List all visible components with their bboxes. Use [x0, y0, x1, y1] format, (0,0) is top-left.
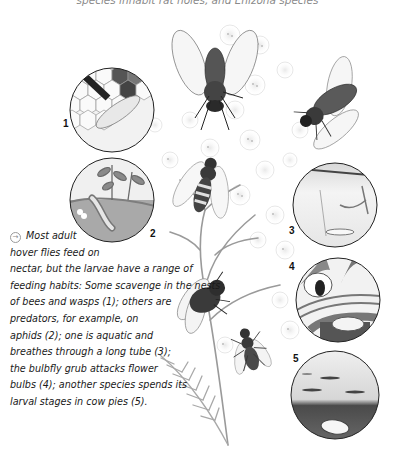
caption-line-11: larval stages in cow pies (5). [10, 394, 200, 411]
inset-4-bulbfly-grub [296, 248, 380, 347]
inset-number-5: 5 [293, 353, 299, 364]
inset-number-1: 1 [63, 118, 69, 129]
inset-5-cow-pie-larva [291, 351, 379, 439]
inset-number-3: 3 [289, 225, 295, 236]
caption-line-9: the bulbfly grub attacks flower [10, 361, 200, 378]
caption-line-4: feeding habits: Some scavenge in the nes… [10, 278, 200, 295]
hover-fly-right [277, 45, 389, 157]
inset-1-bee-nest [64, 65, 154, 152]
caption-line-7: aphids (2); one is aquatic and [10, 328, 200, 345]
caption-line-5: of bees and wasps (1); others are [10, 294, 200, 311]
figure-caption: →Most adult hover flies feed on nectar, … [10, 228, 200, 411]
caption-line-2: hover flies feed on [10, 245, 200, 262]
caption-line-1: →Most adult [10, 228, 200, 245]
caption-line-8: breathes through a long tube (3); [10, 344, 200, 361]
caption-line-10: bulbs (4); another species spends its [10, 377, 200, 394]
inset-3-aquatic-larva [290, 163, 380, 247]
arrow-circle-icon: → [10, 232, 21, 243]
caption-line-3: nectar, but the larvae have a range of [10, 261, 200, 278]
inset-number-4: 4 [289, 261, 295, 272]
caption-line-6: predators, for example, on [10, 311, 200, 328]
